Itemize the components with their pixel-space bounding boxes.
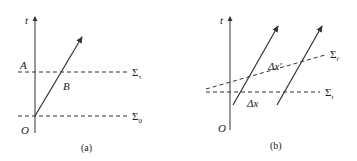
sigma-t-label: Σt <box>325 86 333 101</box>
panel-a: t A B O Στ Σ0 (a) <box>18 14 142 154</box>
origin-label: O <box>218 122 226 134</box>
delta-x-label: Δx <box>246 97 258 109</box>
t-axis-label: t <box>220 14 224 26</box>
sigma-t-prime-line <box>206 55 325 89</box>
panel-b: t Δx′ Δx O Σt′ Σt (b) <box>206 14 340 152</box>
point-a-label: A <box>19 59 27 71</box>
worldline-right <box>277 26 322 105</box>
delta-x-prime-label: Δx′ <box>267 60 282 72</box>
origin-label: O <box>21 124 29 136</box>
point-b-label: B <box>63 80 70 92</box>
t-axis-label: t <box>25 14 29 26</box>
worldline-arrow <box>35 37 82 116</box>
sigma-tau-label: Στ <box>132 66 141 81</box>
spacetime-diagrams: t A B O Στ Σ0 (a) t Δx′ Δx O Σt′ Σt (b) <box>0 0 357 161</box>
caption-a: (a) <box>81 142 92 154</box>
caption-b: (b) <box>270 140 282 152</box>
sigma-t-prime-label: Σt′ <box>330 48 340 63</box>
sigma-0-label: Σ0 <box>132 110 142 125</box>
